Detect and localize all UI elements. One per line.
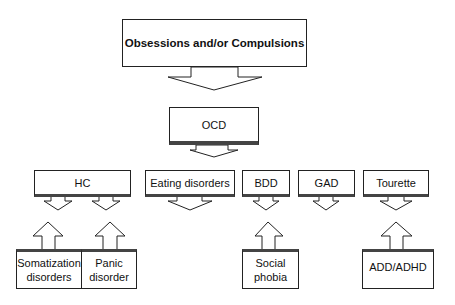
arrow-up-icon	[381, 222, 412, 250]
arrow-down-icon	[168, 67, 262, 90]
arrow-up-icon	[255, 222, 283, 250]
hc-box: HC	[34, 170, 131, 197]
arrow-down-icon	[168, 196, 212, 210]
gad-box: GAD	[298, 170, 355, 197]
gad-label: GAD	[315, 176, 339, 190]
arrow-down-icon	[190, 145, 238, 157]
arrow-down-icon	[313, 196, 339, 210]
eating-disorders-box: Eating disorders	[145, 170, 235, 197]
somatization-disorders-box: Somatization disorders	[16, 249, 82, 289]
arrow-up-icon	[95, 222, 125, 250]
tourette-box: Tourette	[363, 170, 429, 197]
bdd-label: BDD	[254, 176, 277, 190]
social-phobia-label: Social phobia	[251, 256, 290, 284]
social-phobia-box: Social phobia	[242, 249, 299, 289]
arrow-down-icon	[44, 196, 72, 210]
ocd-box: OCD	[169, 107, 259, 145]
arrow-down-icon	[92, 196, 120, 210]
obsessions-compulsions-label: Obsessions and/or Compulsions	[125, 36, 305, 50]
obsessions-compulsions-box: Obsessions and/or Compulsions	[122, 19, 307, 67]
panic-disorder-label: Panic disorder	[88, 256, 130, 284]
add-adhd-box: ADD/ADHD	[362, 249, 434, 289]
panic-disorder-box: Panic disorder	[81, 249, 137, 289]
arrow-down-icon	[380, 196, 412, 210]
arrow-down-icon	[253, 196, 279, 210]
add-adhd-label: ADD/ADHD	[369, 260, 426, 274]
arrow-up-icon	[33, 222, 63, 250]
hc-label: HC	[75, 176, 91, 190]
tourette-label: Tourette	[376, 176, 416, 190]
ocd-label: OCD	[202, 118, 226, 132]
eating-disorders-label: Eating disorders	[150, 176, 230, 190]
bdd-box: BDD	[242, 170, 290, 197]
somatization-disorders-label: Somatization disorders	[17, 256, 81, 284]
